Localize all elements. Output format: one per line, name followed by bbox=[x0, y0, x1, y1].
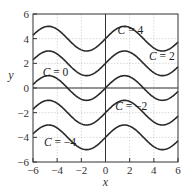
chart: −6−4−20246 −6−4−20246 C = 4C = 2C = 0C =… bbox=[0, 0, 188, 188]
x-tick-label: −4 bbox=[51, 164, 63, 176]
curve-label: C = 0 bbox=[43, 66, 69, 78]
x-axis-title: x bbox=[102, 175, 109, 188]
y-tick-label: −4 bbox=[17, 131, 29, 143]
y-tick-label: 6 bbox=[24, 8, 30, 20]
y-axis-title: y bbox=[7, 68, 14, 82]
curve-labels: C = 4C = 2C = 0C = −2C = −4 bbox=[43, 24, 175, 148]
curve-label: C = 4 bbox=[118, 24, 144, 36]
y-ticks: −6−4−20246 bbox=[17, 8, 37, 168]
curve-label: C = −4 bbox=[44, 136, 76, 148]
y-tick-label: −2 bbox=[17, 107, 29, 119]
x-tick-label: 4 bbox=[151, 164, 157, 176]
y-tick-label: −6 bbox=[17, 156, 29, 168]
y-tick-label: 0 bbox=[24, 82, 30, 94]
curve-label: C = 2 bbox=[149, 50, 175, 62]
x-tick-label: 6 bbox=[175, 164, 181, 176]
y-tick-label: 2 bbox=[24, 57, 30, 69]
y-tick-label: 4 bbox=[24, 33, 30, 45]
x-tick-label: 2 bbox=[127, 164, 133, 176]
curve-label: C = −2 bbox=[115, 100, 147, 112]
x-ticks: −6−4−20246 bbox=[27, 158, 181, 176]
x-tick-label: −2 bbox=[75, 164, 87, 176]
